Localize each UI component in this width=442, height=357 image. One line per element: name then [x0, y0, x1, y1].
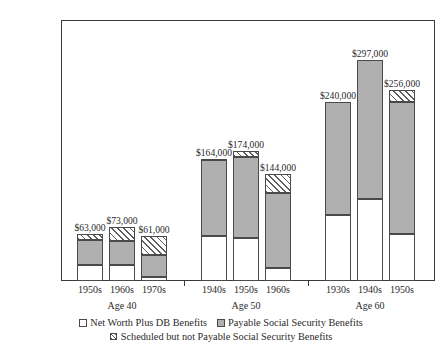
bar-segment-payable: [389, 102, 415, 234]
legend-row-1: Net Worth Plus DB BenefitsPayable Social…: [0, 316, 442, 330]
bar-segment-net: [389, 234, 415, 281]
bar-age-50-1950s[interactable]: [233, 151, 259, 281]
x-axis-tick-1970s: 1970s: [142, 284, 166, 295]
bar-value-label: $174,000: [228, 139, 264, 150]
x-axis-tick-1950s: 1950s: [390, 284, 414, 295]
bar-value-label: $164,000: [196, 147, 232, 158]
bar-value-label: $61,000: [138, 224, 169, 235]
legend-item-net[interactable]: Net Worth Plus DB Benefits: [79, 316, 207, 330]
bar-segment-payable: [77, 240, 103, 265]
x-axis-group-label-age-40: Age 40: [107, 300, 136, 311]
bar-segment-scheduled: [109, 227, 135, 241]
legend-swatch-payable-icon: [217, 319, 225, 327]
bar-segment-net: [109, 265, 135, 281]
bar-value-label: $73,000: [106, 215, 137, 226]
x-axis-tick-1960s: 1960s: [266, 284, 290, 295]
legend-label-net: Net Worth Plus DB Benefits: [90, 317, 207, 328]
bar-segment-net: [77, 265, 103, 281]
bar-segment-scheduled: [389, 90, 415, 102]
bar-age-60-1930s[interactable]: [325, 102, 351, 281]
bar-value-label: $297,000: [352, 48, 388, 59]
chart-legend: Net Worth Plus DB BenefitsPayable Social…: [0, 316, 442, 343]
bar-segment-payable: [325, 102, 351, 215]
bar-segment-net: [201, 236, 227, 281]
x-axis-tick-1950s: 1950s: [78, 284, 102, 295]
bar-segment-payable: [233, 157, 259, 238]
bar-segment-net: [141, 277, 167, 281]
bar-segment-net: [357, 199, 383, 281]
bar-age-50-1960s[interactable]: [265, 174, 291, 281]
legend-label-scheduled: Scheduled but not Payable Social Securit…: [121, 331, 333, 342]
bar-segment-net: [233, 238, 259, 281]
axis-group-separator: [308, 281, 309, 286]
x-axis-tick-1960s: 1960s: [110, 284, 134, 295]
bar-segment-payable: [265, 193, 291, 268]
axis-group-separator: [184, 281, 185, 286]
bar-value-label: $256,000: [384, 78, 420, 89]
bar-value-label: $63,000: [74, 222, 105, 233]
legend-item-payable[interactable]: Payable Social Security Benefits: [217, 316, 363, 330]
bar-segment-payable: [201, 160, 227, 236]
legend-item-scheduled[interactable]: Scheduled but not Payable Social Securit…: [110, 330, 333, 344]
bar-segment-net: [265, 268, 291, 281]
bar-age-40-1950s[interactable]: [77, 234, 103, 281]
x-axis-group-label-age-60: Age 60: [355, 300, 384, 311]
x-axis-group-label-age-50: Age 50: [231, 300, 260, 311]
bar-segment-payable: [141, 255, 167, 277]
bar-segment-scheduled: [265, 174, 291, 193]
x-axis-tick-1950s: 1950s: [234, 284, 258, 295]
bar-segment-scheduled: [141, 236, 167, 255]
bar-age-60-1950s[interactable]: [389, 90, 415, 281]
bar-value-label: $240,000: [320, 90, 356, 101]
bar-age-60-1940s[interactable]: [357, 60, 383, 281]
legend-swatch-scheduled-icon: [110, 333, 118, 341]
bar-segment-payable: [357, 60, 383, 199]
bar-segment-payable: [109, 241, 135, 265]
bar-segment-net: [325, 215, 351, 281]
x-axis-tick-1930s: 1930s: [326, 284, 350, 295]
legend-swatch-net-icon: [79, 319, 87, 327]
bar-value-label: $144,000: [260, 162, 296, 173]
x-axis-tick-1940s: 1940s: [358, 284, 382, 295]
legend-label-payable: Payable Social Security Benefits: [228, 317, 363, 328]
chart-container: $0$50,000$100,000$150,000$200,000$250,00…: [0, 0, 442, 357]
bar-age-50-1940s[interactable]: [201, 159, 227, 281]
bar-age-40-1970s[interactable]: [141, 236, 167, 281]
legend-row-2: Scheduled but not Payable Social Securit…: [0, 330, 442, 344]
x-axis-tick-1940s: 1940s: [202, 284, 226, 295]
bar-age-40-1960s[interactable]: [109, 227, 135, 281]
